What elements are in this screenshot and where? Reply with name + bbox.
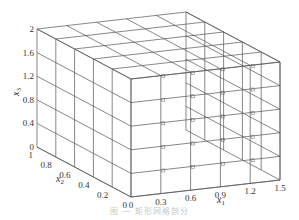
x3-axis-label: x3 bbox=[10, 88, 23, 97]
x1-tick-label: 1.2 bbox=[245, 186, 256, 196]
x3-tick-label: 1.6 bbox=[23, 48, 35, 58]
grid-line bbox=[156, 15, 250, 65]
x1-tick-label: 1.5 bbox=[274, 183, 286, 193]
grid-line bbox=[186, 59, 280, 109]
axis-labels: x1x2x3 bbox=[10, 88, 225, 207]
grid-line bbox=[131, 86, 280, 103]
grid-line bbox=[186, 83, 280, 133]
axis-edge bbox=[131, 180, 280, 197]
grid-line bbox=[37, 76, 131, 126]
grid-line bbox=[131, 133, 280, 150]
grid-line bbox=[186, 12, 280, 62]
grid-lines bbox=[37, 12, 280, 197]
x3-tick-label: 0.4 bbox=[23, 118, 35, 128]
grid-line bbox=[37, 53, 131, 103]
x3-tick-label: 0 bbox=[30, 142, 35, 152]
grid-line bbox=[131, 109, 280, 126]
x2-tick-label: 0.2 bbox=[97, 190, 108, 200]
grid-line bbox=[97, 22, 191, 72]
grid-line bbox=[126, 19, 220, 69]
mesh-figure: 00.30.60.91.21.500.20.40.60.8100.40.81.2… bbox=[0, 0, 299, 220]
grid-line bbox=[67, 26, 161, 76]
grid-line bbox=[37, 100, 131, 150]
grid-line bbox=[37, 29, 131, 79]
x1-tick-label: 0.6 bbox=[185, 193, 197, 203]
x3-tick-label: 1.2 bbox=[23, 71, 34, 81]
x3-tick-label: 0.8 bbox=[23, 95, 35, 105]
x2-tick-label: 0.8 bbox=[41, 160, 53, 170]
grid-line bbox=[131, 156, 280, 173]
grid-line bbox=[186, 130, 280, 180]
figure-caption: 图 — 矩形网格剖分 bbox=[0, 205, 299, 216]
x2-tick-label: 0.4 bbox=[78, 180, 90, 190]
grid-line bbox=[186, 106, 280, 156]
x3-tick-label: 2 bbox=[30, 24, 35, 34]
